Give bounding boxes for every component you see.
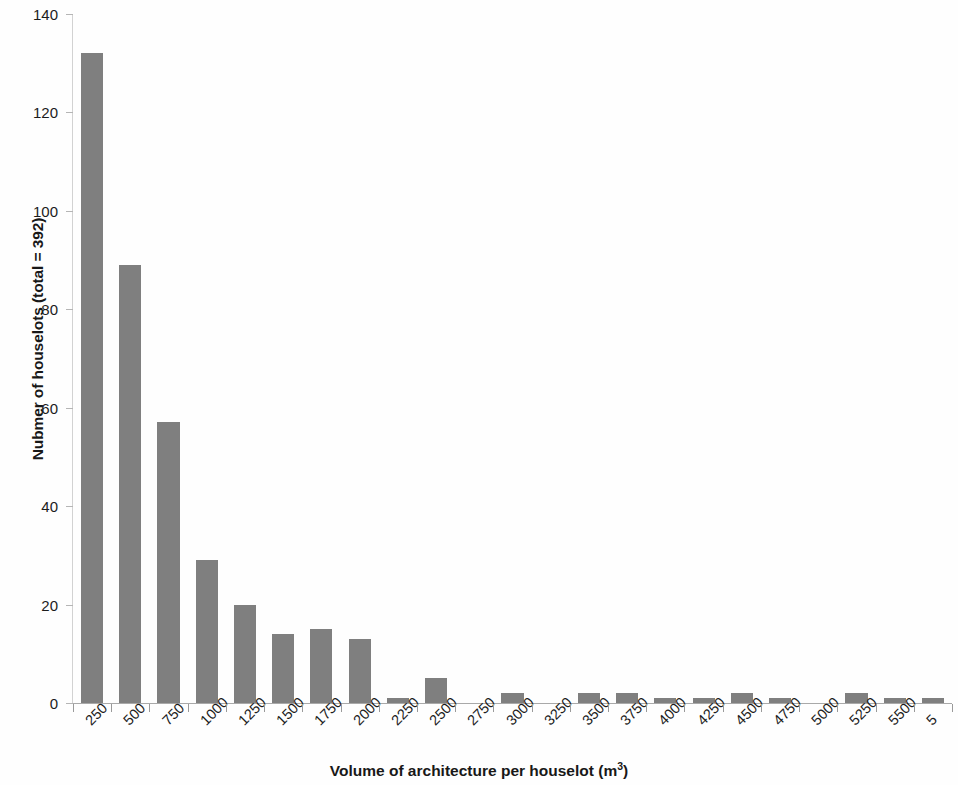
- y-axis-tick-label: 40: [8, 498, 58, 515]
- bar: [157, 422, 179, 703]
- x-axis-tick-mark: [226, 704, 227, 712]
- x-axis-tick-mark: [188, 704, 189, 712]
- x-axis-tick-mark: [952, 704, 953, 712]
- x-axis-tick-mark: [417, 704, 418, 712]
- bar-chart: Nubmer of houselots (total = 392) 020406…: [0, 0, 958, 785]
- y-axis-tick-mark: [66, 14, 73, 15]
- x-axis-tick-label: 500: [120, 700, 148, 728]
- x-axis-tick-mark: [646, 704, 647, 712]
- x-axis-title: Volume of architecture per houselot (m3): [0, 760, 958, 780]
- y-axis-tick-mark: [66, 211, 73, 212]
- x-axis-tick-mark: [341, 704, 342, 712]
- x-axis-tick-mark: [302, 704, 303, 712]
- bar: [272, 634, 294, 703]
- x-axis-tick-mark: [914, 704, 915, 712]
- x-axis-tick-label: 750: [159, 700, 187, 728]
- y-axis-tick-label: 140: [8, 6, 58, 23]
- x-axis-tick-mark: [455, 704, 456, 712]
- y-axis-tick-mark: [66, 703, 73, 704]
- x-axis-tick-mark: [876, 704, 877, 712]
- y-axis-tick-label: 80: [8, 301, 58, 318]
- y-axis-tick-mark: [66, 112, 73, 113]
- y-axis-tick-mark: [66, 309, 73, 310]
- y-axis-tick-mark: [66, 506, 73, 507]
- x-axis-tick-mark: [379, 704, 380, 712]
- x-axis-tick-mark: [608, 704, 609, 712]
- y-axis-tick-label: 100: [8, 202, 58, 219]
- y-axis-tick-mark: [66, 605, 73, 606]
- x-axis-tick-labels: 2505007501000125015001750200022502500275…: [0, 703, 958, 763]
- bar: [81, 53, 103, 703]
- x-axis-tick-mark: [532, 704, 533, 712]
- x-axis-tick-mark: [493, 704, 494, 712]
- x-axis-tick-mark: [723, 704, 724, 712]
- x-axis-tick-mark: [799, 704, 800, 712]
- y-axis-tick-label: 120: [8, 104, 58, 121]
- x-axis-tick-label: 5: [923, 711, 940, 728]
- x-axis-tick-mark: [761, 704, 762, 712]
- bar: [310, 629, 332, 703]
- y-axis-tick-labels: 020406080100120140: [8, 0, 58, 785]
- x-axis-tick-mark: [73, 704, 74, 712]
- y-axis-tick-mark: [66, 408, 73, 409]
- x-axis-tick-label: 250: [82, 700, 110, 728]
- plot-area: [73, 14, 952, 703]
- x-axis-tick-mark: [684, 704, 685, 712]
- y-axis-tick-label: 60: [8, 399, 58, 416]
- x-axis-tick-mark: [570, 704, 571, 712]
- x-axis-tick-mark: [264, 704, 265, 712]
- x-axis-tick-mark: [111, 704, 112, 712]
- bar: [196, 560, 218, 703]
- bar: [119, 265, 141, 703]
- x-axis-tick-mark: [149, 704, 150, 712]
- bar: [234, 605, 256, 703]
- cubic-superscript: 3: [617, 760, 623, 772]
- y-axis-tick-label: 20: [8, 596, 58, 613]
- x-axis-tick-mark: [837, 704, 838, 712]
- bar: [349, 639, 371, 703]
